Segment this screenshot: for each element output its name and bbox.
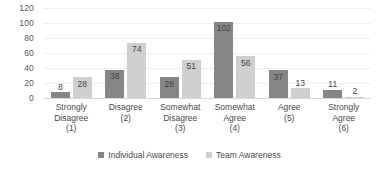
bar[interactable] [51,92,70,98]
legend-swatch-icon [98,152,104,158]
x-axis-category-line: Disagree [44,113,99,124]
x-axis-category-label: StronglyDisagree(1) [44,100,99,144]
bar-column: 56 [236,8,255,98]
bar-column: 11 [323,8,342,98]
x-axis-category-line: (5) [262,113,317,124]
bar-value-label: 51 [187,62,196,71]
x-axis-category-line: Disagree [153,113,208,124]
legend-label: Individual Awareness [108,150,188,160]
x-axis-category-line: (6) [317,123,372,134]
legend-swatch-icon [206,152,212,158]
x-axis-category-line: Strongly [44,102,99,113]
bar-group: 2851 [153,8,208,98]
bar-column: 38 [105,8,124,98]
x-axis-category-line: Agree [317,113,372,124]
x-axis: StronglyDisagree(1)Disagree(2)SomewhatDi… [44,100,371,144]
grouped-bar-chart: 120100806040200 82838742851102563713112 … [0,0,379,174]
axis-baseline [44,98,371,99]
bar-group: 3713 [262,8,317,98]
bar-value-label: 56 [241,59,250,68]
bar-value-label: 28 [165,80,174,89]
bar-group: 112 [317,8,372,98]
bar-value-label: 74 [132,45,141,54]
bar-value-label: 11 [328,80,337,89]
bar-group: 828 [44,8,99,98]
y-axis-tick-label: 60 [24,48,34,58]
x-axis-category-line: (1) [44,123,99,134]
x-axis-category-line: Disagree [99,102,154,113]
legend-item[interactable]: Team Awareness [206,150,281,160]
bar-column: 102 [214,8,233,98]
x-axis-category-line: Agree [262,102,317,113]
x-axis-category-label: SomewhatDisagree(3) [153,100,208,144]
bar-value-label: 2 [352,87,357,96]
bar-column: 13 [291,8,310,98]
x-axis-category-line: (4) [208,123,263,134]
bar-column: 28 [73,8,92,98]
bar-group: 3874 [99,8,154,98]
x-axis-category-line: (3) [153,123,208,134]
x-axis-category-line: (2) [99,113,154,124]
bar-column: 51 [182,8,201,98]
x-axis-category-line: Somewhat [208,102,263,113]
bar-value-label: 8 [58,83,63,92]
legend-item[interactable]: Individual Awareness [98,150,188,160]
bar-value-label: 38 [110,72,119,81]
y-axis-tick-label: 0 [29,93,34,103]
bar-column: 37 [269,8,288,98]
y-axis-tick-label: 20 [24,78,34,88]
y-axis-tick-label: 80 [24,33,34,43]
bar-column: 2 [345,8,364,98]
bar-value-label: 13 [296,79,305,88]
bar-value-label: 37 [274,73,283,82]
x-axis-category-label: SomewhatAgree(4) [208,100,263,144]
bar[interactable] [291,88,310,98]
y-axis-tick-label: 100 [19,18,34,28]
bar-groups: 82838742851102563713112 [44,8,371,98]
bar-column: 74 [127,8,146,98]
chart-legend: Individual AwarenessTeam Awareness [0,150,379,160]
y-axis-tick-label: 40 [24,63,34,73]
x-axis-category-line: Strongly [317,102,372,113]
bar-value-label: 102 [217,24,231,33]
bar-value-label: 28 [78,80,87,89]
bar[interactable] [323,90,342,98]
bar[interactable] [345,97,364,99]
x-axis-category-label: Disagree(2) [99,100,154,144]
bar-group: 10256 [208,8,263,98]
bar-column: 28 [160,8,179,98]
x-axis-category-label: StronglyAgree(6) [317,100,372,144]
bar-column: 8 [51,8,70,98]
x-axis-category-line: Agree [208,113,263,124]
x-axis-category-line: Somewhat [153,102,208,113]
legend-label: Team Awareness [216,150,281,160]
y-axis: 120100806040200 [0,8,40,98]
y-axis-tick-label: 120 [19,3,34,13]
x-axis-category-label: Agree(5) [262,100,317,144]
